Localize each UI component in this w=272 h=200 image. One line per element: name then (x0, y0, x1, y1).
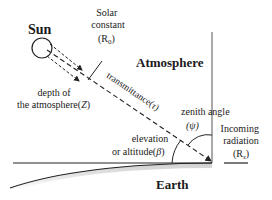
incoming-radiation-label: Incoming radiation (221, 123, 262, 146)
incoming-radiation-symbol: (Rs) (233, 148, 249, 161)
transmittance-label: transmittance(τ) (104, 70, 161, 113)
solar-constant-pointer (88, 61, 102, 80)
zenith-angle-symbol: (ψ) (186, 120, 200, 132)
solar-constant-label: Solar constant (91, 7, 125, 30)
elevation-angle-arc (172, 140, 181, 163)
earth-label: Earth (156, 177, 189, 192)
elevation-label-line2: or altitude(β) (112, 146, 164, 158)
depth-label-line2: the atmosphere(Z) (17, 99, 90, 111)
depth-label: depth of (37, 87, 71, 98)
elevation-label: elevation (132, 133, 169, 144)
atmosphere-label: Atmosphere (136, 55, 204, 70)
solar-radiation-diagram: Sun Solar constant (R0) depth of the atm… (0, 0, 272, 200)
sun-label: Sun (28, 22, 52, 37)
sun-ray-upper (50, 44, 82, 70)
sun-icon (32, 38, 52, 58)
zenith-angle-arc (188, 135, 212, 145)
zenith-angle-label: zenith angle (181, 106, 230, 117)
solar-constant-symbol: (R0) (98, 33, 115, 46)
